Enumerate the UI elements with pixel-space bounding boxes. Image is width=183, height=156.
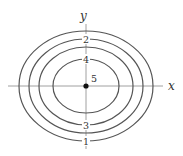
contour-label-1: 1 [83,136,89,147]
maximum-point [83,83,88,88]
contour-label-2: 2 [83,34,89,45]
contour-label-3: 3 [83,120,89,131]
contour-diagram: x y 5 1234 [0,0,183,156]
center-level-label: 5 [91,73,97,84]
y-axis-label: y [79,9,87,23]
contour-label-4: 4 [83,54,89,65]
x-axis-label: x [168,79,175,93]
